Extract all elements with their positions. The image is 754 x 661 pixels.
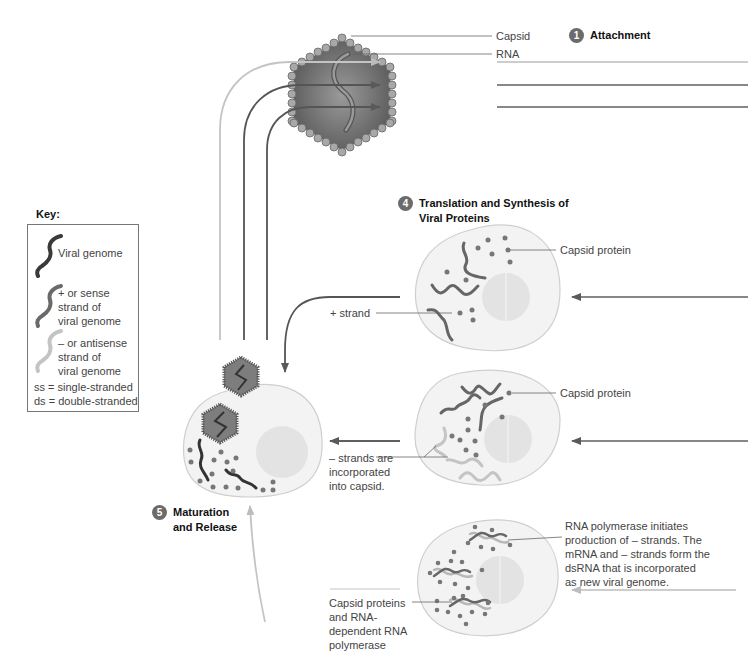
step-attachment: 1Attachment xyxy=(569,28,651,43)
step-translation: 4Translation and Synthesis of Viral Prot… xyxy=(398,196,569,225)
capsid-label: Capsid xyxy=(496,29,530,43)
step-title-line2: Viral Proteins xyxy=(419,212,490,224)
step-title: Maturation xyxy=(173,506,229,518)
label-line: polymerase xyxy=(329,638,407,652)
virion xyxy=(288,34,492,156)
key-item-label: strand of xyxy=(58,350,127,364)
cell-replication xyxy=(412,520,562,636)
label-line: incorporated xyxy=(329,465,393,479)
step-number-badge: 1 xyxy=(569,28,584,43)
key-title: Key: xyxy=(36,208,60,220)
step-maturation: 5Maturation and Release xyxy=(152,505,237,534)
label-line: into capsid. xyxy=(329,479,393,493)
key-item-label: – or antisense xyxy=(58,336,127,350)
label-line: as new viral genome. xyxy=(565,575,710,589)
step-number-badge: 4 xyxy=(398,196,413,211)
cell-minus-strand xyxy=(376,370,560,485)
abbreviation-ds: ds = double-stranded xyxy=(34,394,138,408)
rna-label: RNA xyxy=(496,47,519,61)
rna-polymerase-label: RNA polymerase initiates production of –… xyxy=(565,519,710,589)
key-item-label: Viral genome xyxy=(58,246,123,260)
key-item-plus-strand: + or sense strand of viral genome xyxy=(58,286,121,328)
key-item-viral-genome: Viral genome xyxy=(58,246,123,260)
key-item-label: viral genome xyxy=(58,314,121,328)
step-title: Translation and Synthesis of xyxy=(419,197,569,209)
label-line: dsRNA that is incorporated xyxy=(565,561,710,575)
abbreviation-ss: ss = single-stranded xyxy=(34,380,138,394)
cell-translation xyxy=(376,225,560,351)
capsid-protein-label-2: Capsid protein xyxy=(560,386,631,400)
label-line: mRNA and – strands form the xyxy=(565,547,710,561)
label-line: – strands are xyxy=(329,451,393,465)
minus-strand-up-arrow xyxy=(250,506,265,622)
step-number-badge: 5 xyxy=(152,505,167,520)
cell-maturation xyxy=(184,357,323,497)
key-item-label: + or sense xyxy=(58,286,121,300)
capsid-proteins-rdrp-label: Capsid proteins and RNA- dependent RNA p… xyxy=(329,596,407,652)
plus-strand-label: + strand xyxy=(330,306,370,320)
key-item-minus-strand: – or antisense strand of viral genome xyxy=(58,336,127,378)
key-item-label: strand of xyxy=(58,300,121,314)
step-title: Attachment xyxy=(590,29,651,41)
label-line: and RNA- xyxy=(329,610,407,624)
minus-strands-label: – strands are incorporated into capsid. xyxy=(329,451,393,493)
capsid-protein-label: Capsid protein xyxy=(560,243,631,257)
step-title-line2: and Release xyxy=(173,521,237,533)
key-abbreviations: ss = single-stranded ds = double-strande… xyxy=(34,380,138,408)
key-item-label: viral genome xyxy=(58,364,127,378)
label-line: RNA polymerase initiates xyxy=(565,519,710,533)
label-line: Capsid proteins xyxy=(329,596,407,610)
label-line: dependent RNA xyxy=(329,624,407,638)
label-line: production of – strands. The xyxy=(565,533,710,547)
